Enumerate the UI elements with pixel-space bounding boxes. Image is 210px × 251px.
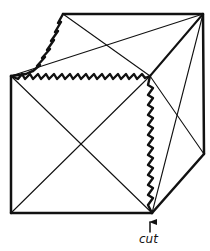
edge-back-right	[203, 14, 204, 154]
cut-edge-top-left	[11, 14, 63, 76]
cut-edge-front-right	[148, 76, 153, 213]
cut-edge-front-top	[11, 74, 150, 79]
cube-diagram	[0, 0, 210, 251]
cut-label: cut	[139, 232, 158, 246]
